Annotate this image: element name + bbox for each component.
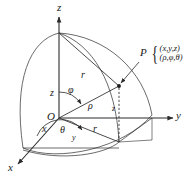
- x-segment-label: x: [42, 124, 46, 134]
- radius-lower-line: [59, 118, 119, 142]
- origin-label: O: [47, 111, 55, 122]
- point-p-dot: [117, 84, 121, 88]
- radius-lower-label: r: [93, 124, 97, 134]
- point-coordinates-group: { (x,y,z) (ρ,φ,θ): [150, 44, 182, 62]
- y-segment-label: y: [72, 134, 76, 142]
- p-leader-line: [121, 62, 139, 83]
- rho-label: ρ: [88, 101, 93, 111]
- coordinate-brace: {: [151, 44, 158, 62]
- spherical-coordinates-figure: z y x O r r z z ρ φ θ y x P { (x,y,z) (ρ…: [0, 0, 193, 180]
- theta-label: θ: [60, 125, 65, 135]
- point-p-marker: [117, 84, 121, 88]
- z-drop-label: z: [112, 105, 115, 113]
- point-p-label: P: [140, 47, 147, 58]
- radius-upper-line: [59, 33, 119, 86]
- y-axis-label: y: [176, 110, 181, 121]
- spherical-coordinates: (ρ,φ,θ): [160, 53, 183, 62]
- sphere-octant-outline: [20, 33, 152, 156]
- z-height-label: z: [50, 88, 54, 98]
- coordinate-lines: (x,y,z) (ρ,φ,θ): [160, 44, 183, 62]
- figure-canvas: [0, 0, 193, 180]
- inner-base-arc: [23, 142, 119, 156]
- z-axis-label: z: [57, 2, 61, 13]
- phi-label: φ: [68, 85, 74, 95]
- p-leader-arrow: [121, 62, 139, 83]
- x-axis-label: x: [8, 162, 13, 173]
- x-axis-line: [18, 118, 59, 164]
- radius-upper-label: r: [81, 70, 85, 80]
- base-to-y-axis: [119, 118, 152, 142]
- base-edge-to-tick: [119, 140, 152, 142]
- axis-lines: [18, 17, 173, 164]
